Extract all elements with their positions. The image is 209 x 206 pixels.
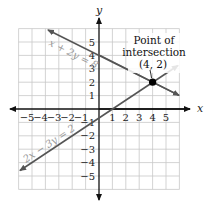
annotation-line-1: Point of bbox=[134, 34, 176, 46]
svg-text:3: 3 bbox=[136, 112, 142, 123]
svg-text:5: 5 bbox=[89, 37, 95, 48]
svg-text:−4: −4 bbox=[80, 157, 95, 168]
svg-text:2: 2 bbox=[123, 112, 129, 123]
svg-text:1: 1 bbox=[109, 112, 115, 123]
y-axis-label: y bbox=[95, 4, 103, 17]
line2-equation-label: 2x − 3y = 2 bbox=[20, 122, 77, 165]
annotation-line-3: (4, 2) bbox=[139, 58, 167, 70]
svg-text:2: 2 bbox=[89, 77, 95, 88]
svg-text:−5: −5 bbox=[80, 171, 95, 182]
svg-text:−3: −3 bbox=[80, 144, 95, 155]
svg-text:5: 5 bbox=[163, 112, 169, 123]
coordinate-plane: x y −5 −4 −3 −2 −1 1 2 3 4 5 5 4 3 2 1 −… bbox=[0, 0, 209, 206]
svg-text:4: 4 bbox=[149, 112, 155, 123]
x-axis-label: x bbox=[197, 102, 204, 115]
intersection-point bbox=[149, 79, 156, 86]
annotation-line-2: intersection bbox=[122, 46, 186, 58]
svg-text:−2: −2 bbox=[80, 130, 95, 141]
svg-text:1: 1 bbox=[89, 90, 95, 101]
